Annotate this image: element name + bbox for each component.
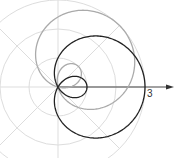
x-tick-label: 3	[147, 88, 153, 99]
polar-grid	[0, 0, 145, 158]
axis-arrow-icon	[166, 85, 174, 90]
grid-circle	[0, 0, 145, 158]
polar-plot: 3	[0, 0, 181, 158]
